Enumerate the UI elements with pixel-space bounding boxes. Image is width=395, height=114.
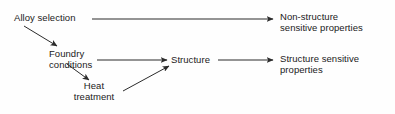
node-heat-treatment-line-2: treatment xyxy=(61,92,127,103)
node-foundry-conditions: Foundry conditions xyxy=(49,49,92,70)
flow-diagram: Alloy selection Foundry conditions Heat … xyxy=(0,0,395,114)
node-structure-sensitive-properties-line-2: properties xyxy=(280,65,359,76)
node-alloy-selection-line-1: Alloy selection xyxy=(14,13,75,24)
node-structure: Structure xyxy=(171,55,210,66)
node-foundry-conditions-line-1: Foundry xyxy=(49,49,92,60)
node-non-structure-sensitive-properties-line-2: sensitive properties xyxy=(280,23,363,34)
node-structure-sensitive-properties-line-1: Structure sensitive xyxy=(280,54,359,65)
node-heat-treatment-line-1: Heat xyxy=(61,81,127,92)
edge-alloy-to-foundry xyxy=(24,26,57,46)
node-structure-sensitive-properties: Structure sensitive properties xyxy=(280,54,359,75)
node-foundry-conditions-line-2: conditions xyxy=(49,60,92,71)
node-non-structure-sensitive-properties: Non-structure sensitive properties xyxy=(280,12,363,33)
node-alloy-selection: Alloy selection xyxy=(14,13,75,24)
edge-heat-to-structure xyxy=(123,66,169,91)
node-heat-treatment: Heat treatment xyxy=(61,81,127,102)
node-non-structure-sensitive-properties-line-1: Non-structure xyxy=(280,12,363,23)
node-structure-line-1: Structure xyxy=(171,55,210,66)
